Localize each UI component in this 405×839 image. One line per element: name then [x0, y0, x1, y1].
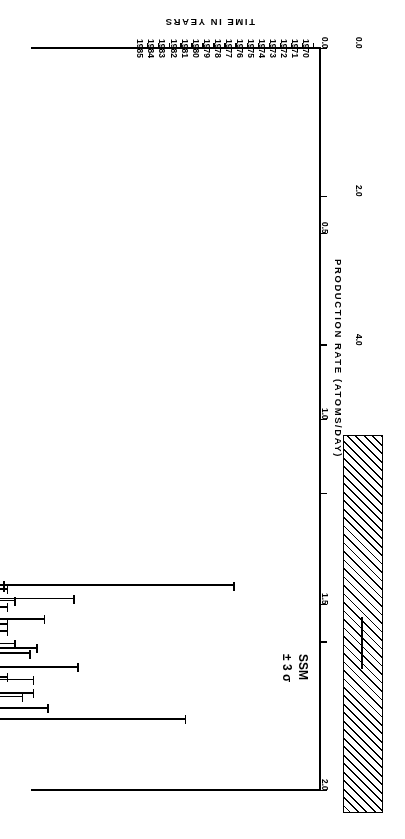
x-tick-label: 1984 [147, 39, 156, 58]
value-marker [3, 581, 5, 592]
error-cap-lower [33, 689, 35, 698]
y2-tick-label: 2.0 [355, 185, 364, 197]
error-cap-lower [7, 585, 9, 594]
x-tick-label: 1982 [169, 39, 178, 58]
y2-tick [321, 48, 327, 49]
ssm-center-line [361, 617, 363, 669]
x-tick-label: 1974 [258, 39, 267, 58]
error-bar [0, 692, 34, 694]
error-cap-lower [7, 673, 9, 682]
ssm-label-line2: ± 3 σ [280, 654, 293, 682]
x-tick-label: 1981 [180, 39, 189, 58]
y2-tick [321, 641, 327, 642]
x-tick-label: 1976 [235, 39, 244, 58]
error-cap-lower [233, 582, 235, 591]
x-tick-label: 1975 [247, 39, 256, 58]
ssm-band [343, 435, 383, 813]
error-cap-lower [73, 595, 75, 604]
x-axis-title: TIME IN YEARS [164, 18, 255, 28]
y-tick-label: 0.5 [321, 223, 330, 235]
error-cap-lower [77, 663, 79, 672]
y-axis-title: PRODUCTION RATE (ATOMS/DAY) [334, 259, 344, 458]
x-tick [313, 43, 314, 49]
x-tick-label: 1985 [136, 39, 145, 58]
axis-top-spine [31, 789, 321, 791]
ssm-label-line1: SSM [296, 654, 309, 680]
error-cap-lower [47, 704, 49, 713]
x-tick-label: 1971 [291, 39, 300, 58]
error-cap-lower [22, 693, 24, 702]
error-cap-lower [7, 620, 9, 629]
rotated-figure-group: 1970197119721973197419751976197719781979… [0, 0, 405, 839]
error-bar [0, 666, 79, 668]
x-tick-label: 1980 [191, 39, 200, 58]
error-bar [0, 718, 186, 720]
error-bar [0, 647, 38, 649]
x-tick-label: 1972 [280, 39, 289, 58]
y2-tick [321, 790, 327, 791]
error-cap-lower [7, 603, 9, 612]
error-cap-lower [185, 715, 187, 724]
error-cap-lower [33, 676, 35, 685]
error-cap-lower [14, 640, 16, 649]
error-bar [0, 652, 31, 654]
y2-tick [321, 493, 327, 494]
x-tick-label: 1983 [158, 39, 167, 58]
y2-tick [321, 196, 327, 197]
error-bar [0, 618, 45, 620]
error-cap-lower [36, 644, 38, 653]
error-bar [0, 598, 75, 600]
error-cap-lower [29, 650, 31, 659]
chart-canvas: 1970197119721973197419751976197719781979… [0, 0, 405, 839]
y2-tick-label: 0.0 [355, 37, 364, 49]
error-cap-lower [44, 615, 46, 624]
x-tick-label: 1979 [202, 39, 211, 58]
error-bar [0, 585, 235, 587]
y-tick-label: 1.0 [321, 408, 330, 420]
y2-tick [321, 344, 327, 345]
error-bar [0, 696, 23, 698]
error-bar [0, 679, 34, 681]
y-tick-label: 1.5 [321, 594, 330, 606]
error-bar [0, 707, 49, 709]
x-tick-label: 1978 [213, 39, 222, 58]
x-tick-label: 1973 [269, 39, 278, 58]
x-tick-label: 1970 [302, 39, 311, 58]
y2-tick-label: 4.0 [355, 334, 364, 346]
x-tick-label: 1977 [224, 39, 233, 58]
